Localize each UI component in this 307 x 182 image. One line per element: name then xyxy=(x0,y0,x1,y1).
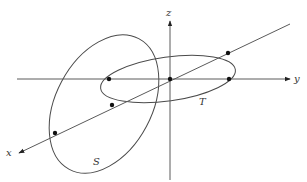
x-axis-label: x xyxy=(6,148,12,158)
z-axis-label: z xyxy=(166,8,171,18)
y-axis-label: y xyxy=(294,74,300,84)
surfaces-diagram: z y x S T xyxy=(0,0,307,182)
surface-S-label: S xyxy=(93,157,100,167)
T-left-y-dot xyxy=(107,77,111,81)
T-lower-x-dot xyxy=(110,103,114,107)
T-right-y-dot xyxy=(227,77,231,81)
S-lower-x-dot xyxy=(53,131,57,135)
x-axis xyxy=(19,24,290,153)
surface-S xyxy=(27,16,181,182)
diagram-canvas xyxy=(0,0,307,182)
origin-dot xyxy=(168,77,172,81)
surface-T-label: T xyxy=(199,97,206,107)
T-upper-x-dot xyxy=(226,51,230,55)
